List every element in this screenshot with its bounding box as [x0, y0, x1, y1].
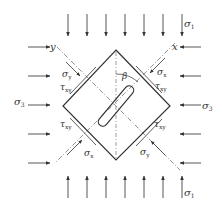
x-axis-label: x — [172, 41, 178, 52]
sigma1-bottom-arrows — [68, 176, 182, 198]
sigma3-left-label: σ3 — [14, 96, 25, 108]
upper-left-tau-line — [70, 67, 96, 94]
sigma1-top-label: σ1 — [184, 18, 195, 30]
y-axis-label: y — [49, 41, 56, 52]
beta-label: β — [121, 71, 127, 81]
tau-xy-upper-left-label: τxy — [60, 82, 72, 94]
sigma-x-lower-left-label: σx — [84, 148, 94, 159]
sigma3-right-label: σ3 — [202, 100, 213, 112]
sigma-y-lower-right-label: σy — [140, 147, 150, 159]
sigma1-top-arrows — [68, 14, 182, 36]
sigma-y-upper-left-label: σy — [62, 69, 72, 81]
sigma3-left-arrows — [28, 47, 50, 163]
lower-left-sigma-x-arrow — [67, 140, 82, 155]
sigma-x-upper-right-label: σx — [157, 67, 167, 78]
tau-xy-lower-left-label: τxy — [60, 119, 72, 131]
x-axis-line — [55, 43, 175, 163]
lower-right-sigma-y-arrow — [151, 141, 165, 155]
lower-left-tau-line — [70, 118, 96, 145]
crack-stress-diagram: σ1 σ1 σ3 σ3 x y β σy τxy σx τxy τxy σx τ… — [0, 0, 222, 214]
tau-xy-upper-right-label: τxy — [155, 81, 167, 93]
sigma1-bottom-label: σ1 — [184, 187, 195, 199]
sigma3-right-arrows — [180, 47, 201, 163]
